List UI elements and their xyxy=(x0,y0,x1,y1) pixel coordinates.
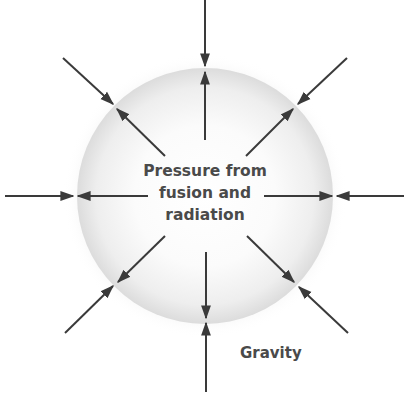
gravity-arrow-lower-left xyxy=(65,286,113,333)
pressure-label-line-1: Pressure from xyxy=(130,160,280,182)
pressure-label-line-2: fusion and xyxy=(130,182,280,204)
pressure-label-line-3: radiation xyxy=(130,204,280,226)
gravity-arrow-lower-right xyxy=(299,287,348,333)
hydrostatic-equilibrium-diagram: Pressure from fusion and radiation Gravi… xyxy=(0,0,404,406)
pressure-label: Pressure from fusion and radiation xyxy=(130,160,280,226)
gravity-arrow-upper-right xyxy=(298,58,347,104)
gravity-label: Gravity xyxy=(240,343,302,363)
gravity-arrow-upper-left xyxy=(63,58,113,104)
